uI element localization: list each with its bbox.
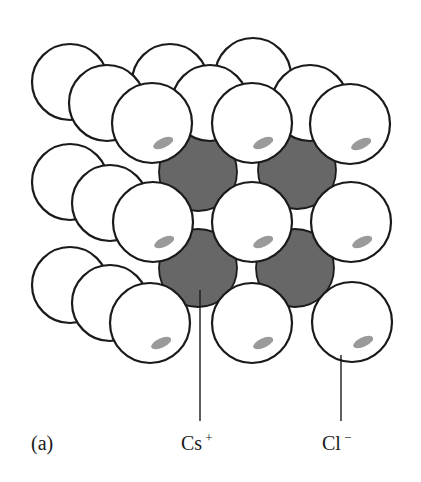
front-chloride-spheres bbox=[110, 83, 392, 363]
cation-symbol: Cs bbox=[181, 432, 202, 454]
chloride-ion-sphere bbox=[312, 282, 392, 362]
chloride-ion-sphere bbox=[310, 84, 390, 164]
chloride-ion-sphere bbox=[212, 283, 292, 363]
panel-label-text: (a) bbox=[31, 432, 53, 454]
chloride-ion-sphere bbox=[212, 83, 292, 163]
anion-label: Cl− bbox=[322, 433, 351, 453]
cation-charge: + bbox=[205, 430, 212, 445]
chloride-ion-sphere bbox=[113, 182, 193, 262]
chloride-ion-sphere bbox=[212, 182, 292, 262]
chloride-ion-sphere bbox=[110, 283, 190, 363]
anion-charge: − bbox=[344, 430, 351, 445]
chloride-ion-sphere bbox=[311, 182, 391, 262]
anion-symbol: Cl bbox=[322, 432, 341, 454]
panel-label: (a) bbox=[31, 433, 53, 453]
cation-label: Cs+ bbox=[181, 433, 212, 453]
chloride-ion-sphere bbox=[112, 83, 192, 163]
cscl-lattice-diagram bbox=[0, 0, 421, 482]
